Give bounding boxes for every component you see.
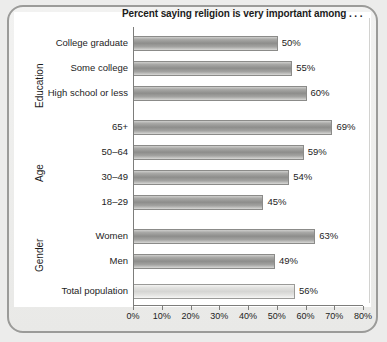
bar bbox=[134, 284, 295, 299]
x-axis-tick bbox=[133, 306, 134, 310]
category-label: 30–49 bbox=[102, 171, 128, 182]
category-label: Total population bbox=[61, 285, 128, 296]
bar-value-label: 55% bbox=[296, 62, 315, 73]
x-axis-tick bbox=[334, 306, 335, 310]
bar bbox=[134, 229, 315, 244]
plot-area: 0%10%20%30%40%50%60%70%80% College gradu… bbox=[0, 0, 387, 342]
chart-row: Some college55% bbox=[0, 61, 387, 76]
category-label: 65+ bbox=[112, 121, 128, 132]
category-label: College graduate bbox=[56, 37, 128, 48]
bar bbox=[134, 195, 263, 210]
chart-row: Men49% bbox=[0, 254, 387, 269]
bar-value-label: 69% bbox=[336, 121, 355, 132]
bar bbox=[134, 254, 275, 269]
x-axis-tick-label: 10% bbox=[153, 311, 171, 321]
bar bbox=[134, 170, 289, 185]
x-axis-tick-label: 50% bbox=[268, 311, 286, 321]
chart-row: High school or less60% bbox=[0, 86, 387, 101]
chart-row: Total population56% bbox=[0, 284, 387, 299]
category-label: 50–64 bbox=[102, 146, 128, 157]
chart-row: 50–6459% bbox=[0, 145, 387, 160]
bar-value-label: 59% bbox=[308, 146, 327, 157]
chart-screenshot: Percent saying religion is very importan… bbox=[0, 0, 387, 342]
bar bbox=[134, 61, 292, 76]
x-axis-tick-label: 80% bbox=[354, 311, 372, 321]
bar-value-label: 60% bbox=[311, 87, 330, 98]
bar-value-label: 49% bbox=[279, 255, 298, 266]
bar-value-label: 56% bbox=[299, 285, 318, 296]
x-axis-tick bbox=[248, 306, 249, 310]
category-label: High school or less bbox=[48, 87, 128, 98]
x-axis-tick-label: 20% bbox=[181, 311, 199, 321]
bar bbox=[134, 145, 304, 160]
x-axis-tick-label: 60% bbox=[296, 311, 314, 321]
group-axis-label: Gender bbox=[34, 239, 45, 272]
chart-row: 30–4954% bbox=[0, 170, 387, 185]
x-axis-tick bbox=[162, 306, 163, 310]
x-axis-tick bbox=[306, 306, 307, 310]
x-axis-tick bbox=[363, 306, 364, 310]
category-label: 18–29 bbox=[102, 196, 128, 207]
group-axis-label: Age bbox=[34, 164, 45, 182]
chart-row: College graduate50% bbox=[0, 36, 387, 51]
bar bbox=[134, 120, 332, 135]
x-axis-tick-label: 30% bbox=[210, 311, 228, 321]
x-axis-tick-label: 70% bbox=[325, 311, 343, 321]
bar-value-label: 63% bbox=[319, 230, 338, 241]
x-axis-tick-label: 0% bbox=[126, 311, 139, 321]
x-axis-tick-label: 40% bbox=[239, 311, 257, 321]
x-axis-tick bbox=[277, 306, 278, 310]
category-label: Men bbox=[110, 255, 128, 266]
chart-row: 18–2945% bbox=[0, 195, 387, 210]
bar-value-label: 50% bbox=[282, 37, 301, 48]
x-axis-tick bbox=[191, 306, 192, 310]
bar bbox=[134, 86, 307, 101]
bar bbox=[134, 36, 278, 51]
bar-value-label: 45% bbox=[267, 196, 286, 207]
bar-value-label: 54% bbox=[293, 171, 312, 182]
group-axis-label: Education bbox=[34, 64, 45, 108]
category-label: Some college bbox=[70, 62, 128, 73]
x-axis-tick bbox=[219, 306, 220, 310]
chart-row: 65+69% bbox=[0, 120, 387, 135]
chart-row: Women63% bbox=[0, 229, 387, 244]
category-label: Women bbox=[95, 230, 128, 241]
